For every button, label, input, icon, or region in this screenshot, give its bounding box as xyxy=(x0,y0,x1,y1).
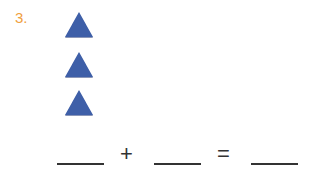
triangle-icon xyxy=(65,52,93,77)
plus-sign: + xyxy=(120,143,133,165)
equals-sign: = xyxy=(217,143,230,165)
answer-blank-2[interactable] xyxy=(154,163,201,165)
triangle-icon xyxy=(65,90,93,115)
triangle-icon xyxy=(65,12,93,37)
problem-number: 3. xyxy=(15,9,28,26)
answer-blank-1[interactable] xyxy=(57,163,104,165)
answer-blank-3[interactable] xyxy=(251,163,298,165)
